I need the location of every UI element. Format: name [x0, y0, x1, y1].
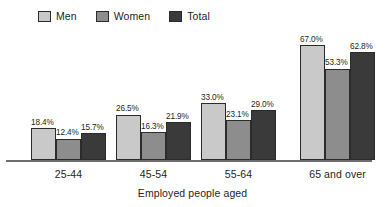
bar-women-45-54[interactable] — [141, 132, 166, 160]
bar-women-25-44[interactable] — [56, 139, 81, 160]
bar-men-45-54[interactable] — [116, 115, 141, 160]
bar-women-55-64[interactable] — [226, 120, 251, 160]
bar-total-65-and-over[interactable] — [350, 52, 375, 160]
bar-group: 26.5%16.3%21.9% — [116, 32, 191, 160]
bar-total-55-64[interactable] — [251, 110, 276, 160]
bar-slot: 62.8% — [350, 30, 375, 160]
x-axis-title: Employed people aged — [0, 187, 385, 199]
legend-label-women: Women — [114, 11, 151, 22]
bar-slot: 53.3% — [325, 30, 350, 160]
legend-swatch-women — [96, 11, 109, 22]
legend-item-women: Women — [96, 11, 151, 22]
bar-total-25-44[interactable] — [81, 133, 106, 160]
legend-label-total: Total — [187, 11, 210, 22]
bar-value-label: 16.3% — [141, 122, 164, 131]
bar-women-65-and-over[interactable] — [325, 69, 350, 160]
bar-value-label: 23.1% — [226, 110, 249, 119]
bar-slot: 16.3% — [141, 30, 166, 160]
bar-value-label: 53.3% — [325, 58, 348, 67]
bar-men-25-44[interactable] — [31, 128, 56, 160]
bar-value-label: 67.0% — [300, 35, 323, 44]
bar-group: 33.0%23.1%29.0% — [201, 32, 276, 160]
bar-slot: 21.9% — [166, 30, 191, 160]
bar-group: 67.0%53.3%62.8% — [300, 32, 375, 160]
x-axis-label-65-and-over: 65 and over — [300, 168, 375, 180]
bar-value-label: 15.7% — [81, 123, 104, 132]
bar-value-label: 21.9% — [166, 112, 189, 121]
bar-value-label: 62.8% — [350, 42, 373, 51]
bar-value-label: 12.4% — [56, 128, 79, 137]
legend-item-men: Men — [38, 11, 77, 22]
legend-item-total: Total — [169, 11, 210, 22]
bar-value-label: 18.4% — [31, 118, 54, 127]
x-axis-label-25-44: 25-44 — [31, 168, 106, 180]
bar-value-label: 26.5% — [116, 104, 139, 113]
chart-legend: Men Women Total — [38, 9, 229, 23]
x-axis-label-45-54: 45-54 — [116, 168, 191, 180]
legend-label-men: Men — [56, 11, 77, 22]
bar-chart-plot-area: 18.4%12.4%15.7%26.5%16.3%21.9%33.0%23.1%… — [0, 30, 385, 162]
bar-slot: 33.0% — [201, 30, 226, 160]
bar-slot: 18.4% — [31, 30, 56, 160]
x-axis-label-55-64: 55-64 — [201, 168, 276, 180]
bar-slot: 29.0% — [251, 30, 276, 160]
bar-total-45-54[interactable] — [166, 122, 191, 160]
bar-slot: 67.0% — [300, 30, 325, 160]
bar-men-65-and-over[interactable] — [300, 45, 325, 160]
bar-value-label: 29.0% — [251, 100, 274, 109]
legend-swatch-total — [169, 11, 182, 22]
legend-swatch-men — [38, 11, 51, 22]
bar-value-label: 33.0% — [201, 93, 224, 102]
bar-slot: 15.7% — [81, 30, 106, 160]
bar-slot: 26.5% — [116, 30, 141, 160]
bar-slot: 23.1% — [226, 30, 251, 160]
bar-group: 18.4%12.4%15.7% — [31, 32, 106, 160]
bar-slot: 12.4% — [56, 30, 81, 160]
bar-men-55-64[interactable] — [201, 103, 226, 160]
x-axis-baseline — [6, 160, 372, 162]
